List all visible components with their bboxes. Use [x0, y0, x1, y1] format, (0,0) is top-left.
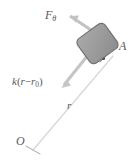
origin-tick: [26, 146, 40, 154]
tangential-force-subscript: θ: [52, 14, 56, 23]
origin-label: O: [16, 135, 25, 147]
radial-line: [33, 56, 113, 150]
block-a: [75, 21, 120, 65]
tangential-force-label: Fθ: [45, 9, 56, 23]
block-label: A: [119, 40, 126, 52]
radius-label: r: [67, 100, 71, 111]
physics-figure: Fθ A k(r−r0) r O: [0, 0, 135, 162]
spring-paren-close: ): [39, 75, 43, 87]
spring-force-arrow: [62, 55, 89, 88]
spring-force-label: k(r−r0): [12, 76, 43, 88]
